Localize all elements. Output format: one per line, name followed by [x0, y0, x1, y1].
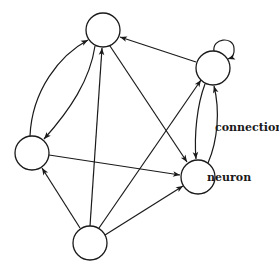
- edge-bottom-to-left: [42, 168, 80, 228]
- node-right: [196, 51, 230, 85]
- edge-left-to-neuron: [49, 155, 180, 175]
- edge-bottom-to-neuron: [105, 186, 183, 235]
- node-top: [86, 13, 120, 47]
- edge-top-to-neuron: [110, 46, 187, 162]
- neuron-label: neuron: [207, 171, 251, 184]
- connection-label: connection: [215, 121, 279, 134]
- edge-bottom-to-right: [99, 80, 201, 228]
- neural-network-diagram: connection neuron: [0, 0, 279, 272]
- edge-right-to-neuron: [195, 84, 205, 159]
- edge-bottom-to-top: [90, 48, 102, 226]
- edge-right-to-top: [120, 37, 196, 62]
- node-left: [15, 136, 49, 170]
- edge-top-to-left: [44, 46, 95, 139]
- node-bottom: [73, 226, 107, 260]
